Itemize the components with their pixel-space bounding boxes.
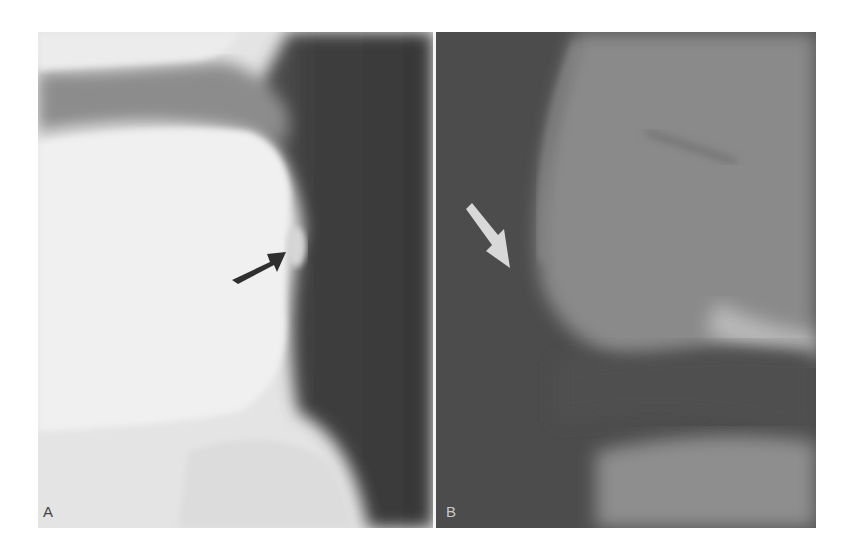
radiograph-figure: A: [38, 32, 816, 528]
panel-b-image: [436, 32, 816, 528]
panel-a: A: [38, 32, 433, 528]
panel-label-a: A: [43, 504, 53, 520]
panel-a-image: [38, 32, 433, 528]
panel-label-b: B: [446, 504, 456, 520]
panel-b: B: [436, 32, 816, 528]
